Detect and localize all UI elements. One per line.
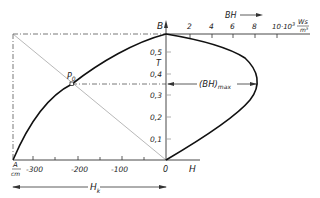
h-axis-ticks <box>33 156 144 160</box>
bh-axis-label: BH <box>225 11 237 20</box>
bhmax-left-arrow-icon <box>167 82 174 86</box>
b-axis-ticks <box>166 52 171 139</box>
h-tick-label-300: -300 <box>26 165 43 174</box>
b-tick-label-04: 0,4 <box>150 70 162 79</box>
h-zero-label: 0 <box>163 165 168 174</box>
h-tick-label-200: -200 <box>71 165 88 174</box>
b-tick-label-01: 0,1 <box>150 135 162 144</box>
bhmax-right-arrow-icon <box>250 82 257 86</box>
unit-m3-label: m³ <box>300 26 309 33</box>
b-tick-label-02: 0,2 <box>150 113 162 122</box>
unit-a-label: A <box>12 161 18 169</box>
bh-tick-label-10: 10·103 <box>272 21 295 31</box>
hk-right-arrow-icon <box>159 185 167 189</box>
bh-tick-label-6: 6 <box>230 22 235 31</box>
bh-tick-label-8: 8 <box>252 22 257 31</box>
bh-label-arrow-icon <box>256 13 263 17</box>
p0-point <box>70 82 74 86</box>
b-axis-label: B <box>157 21 163 31</box>
h-axis-label: H <box>189 164 196 174</box>
p0-label: P0 <box>67 72 76 82</box>
bh-axis-ticks <box>190 34 277 38</box>
diagonal-line <box>13 34 166 160</box>
unit-ws-label: Ws <box>298 18 308 26</box>
demagnetization-chart: B T H 0 -300 -200 -100 A cm 0,1 0,2 0,3 … <box>0 0 320 198</box>
bh-tick-label-2: 2 <box>187 22 192 31</box>
hk-left-arrow-icon <box>12 185 20 189</box>
t-unit-label: T <box>156 59 162 68</box>
bh-tick-label-4: 4 <box>209 22 214 31</box>
bh-curve <box>166 34 257 160</box>
b-axis-arrow-icon <box>164 20 168 28</box>
b-tick-label-05: 0,5 <box>150 48 162 57</box>
h-tick-label-100: -100 <box>111 165 128 174</box>
unit-cm-label: cm <box>11 170 20 177</box>
b-tick-label-03: 0,3 <box>150 91 162 100</box>
